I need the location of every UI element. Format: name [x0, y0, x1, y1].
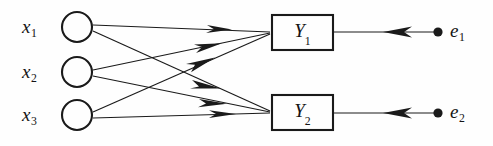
edge-x2-y2 — [93, 76, 270, 112]
node-label-e1: e1 — [450, 21, 464, 40]
node-dot-e1 — [433, 27, 442, 36]
node-dot-e2 — [433, 108, 442, 117]
node-label-e2: e2 — [450, 102, 464, 121]
edges-to-y2 — [93, 31, 270, 118]
edge-x2-y1 — [93, 33, 270, 70]
node-label-x2: x2 — [22, 62, 36, 81]
arrowhead-x1-y1 — [206, 25, 232, 33]
node-circle-x3 — [62, 100, 92, 130]
node-circle-x1 — [62, 12, 92, 42]
node-label-y2: Y2 — [272, 95, 333, 130]
diagram-canvas — [0, 0, 493, 146]
edge-x1-y2 — [93, 31, 270, 111]
edge-x1-y1 — [93, 25, 270, 32]
error-node-dots — [433, 27, 442, 117]
arrowheads-errors — [383, 27, 412, 119]
exogenous-node-circles — [62, 12, 92, 130]
edge-x3-y2 — [93, 113, 270, 118]
path-diagram: x1 x2 x3 Y1 Y2 e1 e2 — [0, 0, 493, 146]
edge-x3-y1 — [93, 34, 270, 112]
node-label-x1: x1 — [22, 17, 36, 36]
edges-from-errors — [334, 32, 434, 113]
node-circle-x2 — [62, 57, 92, 87]
arrowhead-x3-y1 — [186, 58, 215, 73]
node-label-y1: Y1 — [272, 15, 333, 50]
node-label-x3: x3 — [22, 105, 36, 124]
